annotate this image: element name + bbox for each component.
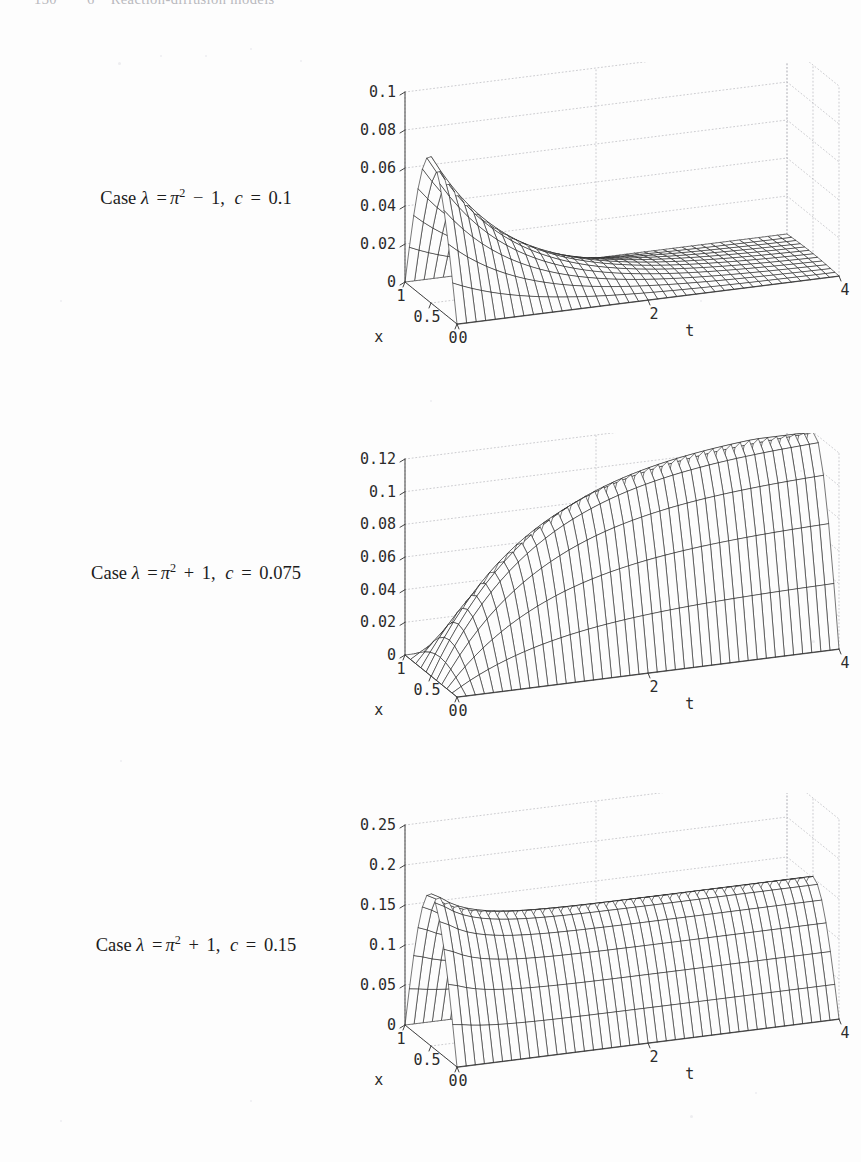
caption-equals-2: = [241, 563, 251, 583]
caption-equals-1: = [152, 935, 162, 955]
x-tick-label: 0 [448, 702, 457, 720]
t-tick-label: 2 [649, 305, 658, 323]
chapter-title: Reaction-diffusion models [111, 0, 275, 7]
z-tick-label: 0.06 [360, 159, 396, 177]
caption-operand: 1 [202, 563, 211, 583]
z-tick-label: 0.08 [360, 121, 396, 139]
t-tick-label: 2 [649, 678, 658, 696]
caption-equals-2: = [246, 935, 256, 955]
x-axis-label: x [374, 1071, 383, 1089]
caption-prefix: Case [91, 563, 127, 583]
z-tick-label: 0.04 [360, 581, 396, 599]
caption-operator: + [184, 563, 194, 583]
surface-plot-case-1: 00.020.040.060.080.110.50024xt [333, 62, 853, 382]
t-axis-label: t [685, 322, 694, 340]
t-tick-label: 4 [840, 281, 849, 299]
caption-equals-1: = [157, 188, 167, 208]
caption-lambda: λ [141, 188, 149, 208]
caption-pi: π [170, 188, 179, 208]
caption-exponent: 2 [175, 933, 181, 947]
z-tick-label: 0.2 [369, 856, 396, 874]
t-tick-label: 2 [649, 1048, 658, 1066]
x-axis-label: x [374, 701, 383, 719]
caption-operand: 1 [206, 935, 215, 955]
x-tick-label: 0.5 [413, 308, 440, 326]
caption-lambda: λ [132, 563, 140, 583]
x-tick-label: 0.5 [413, 681, 440, 699]
chapter-number: 6 [87, 0, 95, 7]
t-tick-label: 0 [458, 702, 467, 720]
x-tick-label: 0.5 [413, 1051, 440, 1069]
z-tick-label: 0.1 [369, 83, 396, 101]
caption-exponent: 2 [179, 186, 185, 200]
x-axis-label: x [374, 328, 383, 346]
caption-case-1: Case λ =π2 − 1, c = 0.1 [46, 188, 346, 209]
caption-c: c [235, 188, 243, 208]
caption-equals-1: = [147, 563, 157, 583]
caption-comma-1: , [220, 188, 225, 208]
caption-prefix: Case [100, 188, 136, 208]
z-tick-label: 0.25 [360, 816, 396, 834]
t-axis-label: t [685, 695, 694, 713]
z-tick-label: 0 [387, 646, 396, 664]
z-tick-label: 0.06 [360, 548, 396, 566]
x-tick-label: 0 [448, 329, 457, 347]
surface-plot-case-3: 00.050.10.150.20.2510.50024xt [333, 793, 853, 1123]
caption-case-3: Case λ =π2 + 1, c = 0.15 [46, 935, 346, 956]
caption-operand: 1 [211, 188, 220, 208]
z-tick-label: 0.02 [360, 235, 396, 253]
t-tick-label: 4 [840, 654, 849, 672]
z-tick-label: 0.04 [360, 197, 396, 215]
z-tick-label: 0.15 [360, 896, 396, 914]
x-tick-label: 1 [396, 660, 405, 678]
caption-pi: π [165, 935, 174, 955]
x-tick-label: 0 [448, 1072, 457, 1090]
z-tick-label: 0.12 [360, 450, 396, 468]
z-tick-label: 0.1 [369, 936, 396, 954]
caption-c-value: 0.1 [269, 188, 292, 208]
caption-c: c [225, 563, 233, 583]
surface-plot-case-3-canvas: 00.050.10.150.20.2510.50024xt [333, 793, 853, 1123]
document-page: 130 6 Reaction-diffusion models Case λ =… [0, 0, 861, 1162]
t-tick-label: 0 [458, 329, 467, 347]
t-tick-label: 4 [840, 1024, 849, 1042]
caption-c-value: 0.15 [264, 935, 296, 955]
running-head: 130 6 Reaction-diffusion models [34, 0, 464, 7]
caption-operator: − [193, 188, 203, 208]
x-tick-label: 1 [396, 287, 405, 305]
caption-prefix: Case [96, 935, 132, 955]
z-tick-label: 0 [387, 1016, 396, 1034]
caption-equals-2: = [250, 188, 260, 208]
z-tick-label: 0.05 [360, 976, 396, 994]
caption-operator: + [188, 935, 198, 955]
caption-case-2: Case λ =π2 + 1, c = 0.075 [46, 563, 346, 584]
caption-lambda: λ [136, 935, 144, 955]
caption-comma-1: , [211, 563, 216, 583]
surface-plot-case-2: 00.020.040.060.080.10.1210.50024xt [333, 433, 853, 753]
caption-c: c [230, 935, 238, 955]
z-tick-label: 0 [387, 273, 396, 291]
caption-exponent: 2 [170, 561, 176, 575]
z-tick-label: 0.02 [360, 613, 396, 631]
x-tick-label: 1 [396, 1030, 405, 1048]
t-tick-label: 0 [458, 1072, 467, 1090]
z-tick-label: 0.08 [360, 515, 396, 533]
page-folio: 130 [34, 0, 57, 7]
caption-pi: π [161, 563, 170, 583]
caption-c-value: 0.075 [259, 563, 301, 583]
surface-plot-case-1-canvas: 00.020.040.060.080.110.50024xt [333, 62, 853, 382]
z-tick-label: 0.1 [369, 483, 396, 501]
t-axis-label: t [685, 1065, 694, 1083]
caption-comma-1: , [216, 935, 221, 955]
surface-plot-case-2-canvas: 00.020.040.060.080.10.1210.50024xt [333, 433, 853, 753]
